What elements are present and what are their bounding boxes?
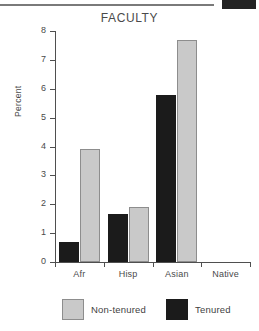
x-tick-label: Asian bbox=[155, 269, 199, 279]
x-tick-label: Hisp bbox=[106, 269, 150, 279]
y-tick-label: 0 bbox=[30, 256, 46, 266]
bar bbox=[80, 149, 100, 262]
x-tick-label: Afr bbox=[57, 269, 101, 279]
legend-label-tenured: Tenured bbox=[195, 304, 231, 315]
y-tick-label: 3 bbox=[30, 169, 46, 179]
bar bbox=[156, 95, 176, 262]
y-tick bbox=[50, 204, 55, 205]
y-tick-label: 2 bbox=[30, 198, 46, 208]
x-tick bbox=[201, 262, 202, 267]
bar bbox=[108, 214, 128, 262]
x-tick bbox=[55, 262, 56, 267]
y-tick bbox=[50, 175, 55, 176]
y-tick bbox=[50, 118, 55, 119]
legend-item-tenured: Tenured bbox=[166, 299, 231, 320]
y-axis-label: Percent bbox=[13, 86, 23, 117]
y-axis-line bbox=[55, 31, 56, 263]
y-tick-label: 5 bbox=[30, 112, 46, 122]
y-tick bbox=[50, 31, 55, 32]
x-tick-label: Native bbox=[204, 269, 248, 279]
y-tick bbox=[50, 233, 55, 234]
y-tick-label: 7 bbox=[30, 54, 46, 64]
legend-item-non-tenured: Non-tenured bbox=[62, 299, 146, 320]
y-tick-label: 4 bbox=[30, 141, 46, 151]
x-tick bbox=[153, 262, 154, 267]
y-tick-label: 1 bbox=[30, 227, 46, 237]
x-tick bbox=[104, 262, 105, 267]
y-tick bbox=[50, 60, 55, 61]
y-tick bbox=[50, 147, 55, 148]
legend-swatch-non-tenured bbox=[62, 299, 84, 320]
legend-label-non-tenured: Non-tenured bbox=[91, 304, 146, 315]
bar bbox=[177, 40, 197, 262]
legend-swatch-tenured bbox=[166, 299, 188, 320]
x-tick bbox=[250, 262, 251, 267]
y-tick-label: 6 bbox=[30, 83, 46, 93]
y-tick bbox=[50, 89, 55, 90]
chart-legend: Non-tenured Tenured bbox=[0, 299, 259, 329]
bar bbox=[59, 242, 79, 262]
bar bbox=[129, 207, 149, 262]
y-tick-label: 8 bbox=[30, 25, 46, 35]
bar-chart: Percent 012345678 AfrHispAsianNative bbox=[0, 0, 259, 331]
